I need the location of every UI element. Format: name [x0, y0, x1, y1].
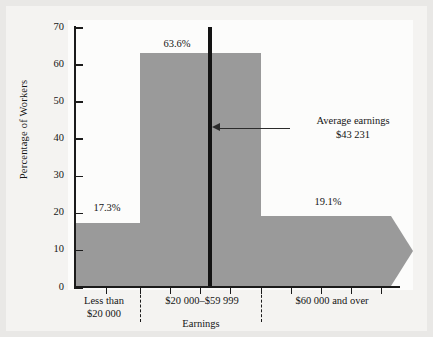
- y-tick-0: [76, 287, 83, 289]
- x-category-label-20000-59999: $20 000–$59 999: [146, 294, 258, 307]
- x-tick-4: [200, 287, 201, 294]
- x-tick-9: [351, 287, 352, 294]
- y-tick-60: [76, 64, 83, 66]
- category-1-line-2: $20 000: [68, 307, 140, 320]
- bar-value-label-60000-and-over: 19.1%: [298, 196, 358, 207]
- x-tick-5: [230, 287, 231, 294]
- y-tick-label-70: 70: [42, 22, 64, 33]
- x-tick-10: [381, 287, 382, 294]
- figure-root: Average earnings $43 231 70 60 50 40 30 …: [0, 0, 433, 337]
- figure-paper: Average earnings $43 231 70 60 50 40 30 …: [6, 6, 427, 331]
- y-tick-label-60: 60: [42, 59, 64, 70]
- annotation-line-1: Average earnings: [292, 114, 414, 128]
- y-tick-50: [76, 101, 83, 103]
- x-category-label-60000-and-over: $60 000 and over: [264, 294, 400, 307]
- x-tick-7: [291, 287, 292, 294]
- bar-value-label-less-than-20000: 17.3%: [78, 202, 136, 213]
- average-earnings-marker-line: [208, 27, 213, 287]
- x-axis-title: Earnings: [141, 318, 261, 329]
- y-tick-label-20: 20: [42, 207, 64, 218]
- category-3-line-1: $60 000 and over: [264, 294, 400, 307]
- x-tick-1: [106, 287, 107, 294]
- category-1-line-1: Less than: [68, 294, 140, 307]
- annotation-arrow-icon: [212, 123, 220, 131]
- y-tick-label-40: 40: [42, 133, 64, 144]
- y-tick-label-30: 30: [42, 170, 64, 181]
- x-category-label-less-than-20000: Less than $20 000: [68, 294, 140, 320]
- y-tick-30: [76, 176, 83, 178]
- bar-open-ended-arrowhead: [391, 216, 413, 286]
- bar-less-than-20000: [75, 223, 140, 287]
- bar-value-label-20000-59999: 63.6%: [142, 38, 212, 49]
- value-text-3: 19.1%: [314, 196, 341, 207]
- y-tick-40: [76, 138, 83, 140]
- y-tick-70: [76, 27, 83, 29]
- category-2-line-1: $20 000–$59 999: [146, 294, 258, 307]
- annotation-leader-line: [218, 128, 290, 129]
- y-tick-label-10: 10: [42, 244, 64, 255]
- bar-20000-59999: [140, 53, 261, 287]
- average-earnings-annotation: Average earnings $43 231: [292, 114, 414, 141]
- value-text-1: 17.3%: [93, 202, 120, 213]
- y-axis-title: Percentage of Workers: [18, 50, 29, 210]
- y-tick-label-50: 50: [42, 96, 64, 107]
- y-tick-10: [76, 250, 83, 252]
- y-tick-label-0: 0: [42, 282, 64, 293]
- value-text-2: 63.6%: [163, 38, 190, 49]
- annotation-line-2: $43 231: [292, 128, 414, 142]
- x-tick-8: [321, 287, 322, 294]
- bar-60000-and-over: [261, 216, 391, 287]
- x-tick-3: [170, 287, 171, 294]
